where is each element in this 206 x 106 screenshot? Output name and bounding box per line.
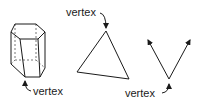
vertex-diagram: vertex vertex vertex	[0, 0, 206, 106]
prism-vertex-pointer	[25, 81, 31, 91]
triangle-vertex-label: vertex	[66, 6, 96, 18]
triangle	[77, 31, 129, 79]
angle-vertex-label: vertex	[125, 87, 155, 99]
triangle-vertex-pointer	[100, 13, 106, 28]
angle-vertex-pointer	[162, 84, 169, 93]
angle	[148, 40, 190, 79]
hexagonal-prism	[11, 24, 45, 77]
hidden-edges	[11, 24, 45, 68]
prism-vertex-label: vertex	[33, 85, 63, 97]
